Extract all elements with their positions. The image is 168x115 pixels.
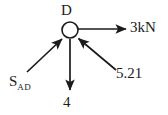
diagram-canvas [0, 0, 168, 115]
force-label-4: 4 [63, 95, 71, 110]
force-label-521: 5.21 [116, 66, 142, 81]
force-arrow-member-ad [27, 39, 62, 72]
member-label-sad: SAD [9, 74, 31, 92]
node-label-d: D [61, 3, 72, 18]
force-label-3kn: 3kN [130, 20, 156, 35]
force-arrow-diagonal-right [79, 39, 117, 71]
free-body-diagram: D 3kN 5.21 4 SAD [0, 0, 168, 115]
joint-node-circle [62, 22, 78, 38]
member-label-subscript: AD [17, 82, 31, 92]
